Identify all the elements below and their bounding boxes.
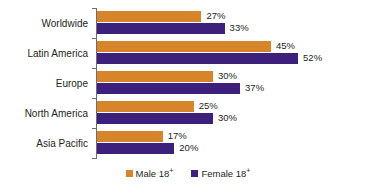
legend-swatch-female-icon <box>191 170 198 177</box>
bar-value-female-north-america: 30% <box>218 112 237 124</box>
bar-value-male-latin-america: 45% <box>276 40 295 52</box>
bar-group-asia-pacific: 17% 20% <box>97 131 376 154</box>
bar-female-europe[interactable] <box>97 83 240 94</box>
bar-male-worldwide[interactable] <box>97 11 201 22</box>
table-row: 20% <box>97 143 376 154</box>
axis-tick <box>92 68 97 69</box>
bar-group-north-america: 25% 30% <box>97 101 376 124</box>
bar-female-latin-america[interactable] <box>97 53 298 64</box>
category-label-latin-america: Latin America <box>0 48 88 59</box>
bar-value-male-asia-pacific: 17% <box>168 130 187 142</box>
bar-group-worldwide: 27% 33% <box>97 11 376 34</box>
bar-group-latin-america: 45% 52% <box>97 41 376 64</box>
table-row: 52% <box>97 53 376 64</box>
category-label-europe: Europe <box>0 78 88 89</box>
bar-female-worldwide[interactable] <box>97 23 225 34</box>
legend-label-male: Male 18+ <box>136 168 174 179</box>
table-row: 33% <box>97 23 376 34</box>
axis-tick <box>92 8 97 9</box>
table-row: 27% <box>97 11 376 22</box>
axis-tick <box>92 158 97 159</box>
bar-value-male-europe: 30% <box>218 70 237 82</box>
bar-female-asia-pacific[interactable] <box>97 143 174 154</box>
table-row: 37% <box>97 83 376 94</box>
bar-male-europe[interactable] <box>97 71 213 82</box>
legend-item-male[interactable]: Male 18+ <box>126 168 174 179</box>
bar-group-europe: 30% 37% <box>97 71 376 94</box>
legend-label-female: Female 18+ <box>201 168 250 179</box>
category-label-north-america: North America <box>0 108 88 119</box>
table-row: 25% <box>97 101 376 112</box>
bar-male-north-america[interactable] <box>97 101 194 112</box>
axis-tick <box>92 98 97 99</box>
chart-legend: Male 18+ Female 18+ <box>0 168 376 179</box>
bar-value-female-latin-america: 52% <box>303 52 322 64</box>
bar-chart: Worldwide Latin America Europe North Ame… <box>0 0 376 194</box>
bar-value-female-worldwide: 33% <box>230 22 249 34</box>
bar-female-north-america[interactable] <box>97 113 213 124</box>
bar-male-asia-pacific[interactable] <box>97 131 163 142</box>
legend-label-female-text: Female 18 <box>201 168 246 179</box>
plot-area: Worldwide Latin America Europe North Ame… <box>0 8 376 160</box>
table-row: 30% <box>97 71 376 82</box>
legend-label-male-sup: + <box>169 167 173 174</box>
bar-male-latin-america[interactable] <box>97 41 271 52</box>
table-row: 17% <box>97 131 376 142</box>
table-row: 45% <box>97 41 376 52</box>
axis-tick <box>92 128 97 129</box>
axis-tick <box>92 38 97 39</box>
legend-label-male-text: Male 18 <box>136 168 170 179</box>
bar-value-female-europe: 37% <box>245 82 264 94</box>
legend-label-female-sup: + <box>246 167 250 174</box>
bar-value-male-worldwide: 27% <box>206 10 225 22</box>
bar-value-female-asia-pacific: 20% <box>179 142 198 154</box>
legend-item-female[interactable]: Female 18+ <box>191 168 250 179</box>
legend-swatch-male-icon <box>126 170 133 177</box>
bar-value-male-north-america: 25% <box>199 100 218 112</box>
category-label-asia-pacific: Asia Pacific <box>0 138 88 149</box>
category-label-worldwide: Worldwide <box>0 18 88 29</box>
table-row: 30% <box>97 113 376 124</box>
